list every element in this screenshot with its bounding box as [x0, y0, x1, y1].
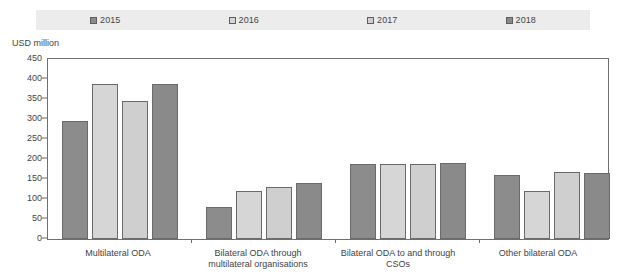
bar-2016 [92, 84, 118, 239]
legend-swatch-2017 [367, 17, 374, 24]
bar-2015 [494, 175, 520, 239]
bar-2018 [584, 173, 610, 239]
bar-group [480, 59, 624, 239]
x-tick-mark [191, 239, 192, 243]
bar-2016 [380, 164, 406, 239]
bar-2017 [554, 172, 580, 239]
legend-item-2016: 2016 [175, 16, 314, 25]
legend-label-2017: 2017 [377, 16, 397, 25]
bar-2015 [350, 164, 376, 239]
chart-legend: 2015 2016 2017 2018 [36, 10, 590, 30]
x-tick-mark [335, 239, 336, 243]
bar-2015 [62, 121, 88, 239]
bar-2016 [524, 191, 550, 239]
legend-label-2015: 2015 [100, 16, 120, 25]
y-tick-label: 250 [27, 133, 42, 143]
legend-label-2016: 2016 [239, 16, 259, 25]
x-axis-category-labels: Multilateral ODABilateral ODA through mu… [48, 248, 608, 270]
y-tick-label: 450 [27, 53, 42, 63]
legend-swatch-2018 [506, 17, 513, 24]
legend-item-2018: 2018 [452, 16, 591, 25]
y-tick-label: 200 [27, 153, 42, 163]
x-tick-mark [479, 239, 480, 243]
bar-2017 [410, 164, 436, 239]
category-label: Bilateral ODA to and through CSOs [328, 248, 468, 270]
legend-item-2015: 2015 [36, 16, 175, 25]
bar-2018 [296, 183, 322, 239]
y-axis-unit-caption: USD million [12, 38, 59, 48]
bar-2018 [152, 84, 178, 239]
y-tick-label: 400 [27, 73, 42, 83]
y-tick-label: 150 [27, 173, 42, 183]
category-label: Multilateral ODA [48, 248, 188, 270]
bar-group [48, 59, 192, 239]
bar-group [336, 59, 480, 239]
y-tick-label: 50 [32, 213, 42, 223]
bar-2016 [236, 191, 262, 239]
bar-2018 [440, 163, 466, 239]
category-label: Other bilateral ODA [468, 248, 608, 270]
legend-item-2017: 2017 [313, 16, 452, 25]
legend-label-2018: 2018 [516, 16, 536, 25]
y-tick-label: 100 [27, 193, 42, 203]
bar-2015 [206, 207, 232, 239]
bar-2017 [266, 187, 292, 239]
y-tick-label: 300 [27, 113, 42, 123]
chart-plot-area: 450400350300250200150100500 [0, 52, 626, 248]
legend-swatch-2015 [90, 17, 97, 24]
y-axis: 450400350300250200150100500 [0, 52, 48, 238]
bar-groups [48, 59, 608, 239]
bar-group [192, 59, 336, 239]
legend-swatch-2016 [229, 17, 236, 24]
category-label: Bilateral ODA through multilateral organ… [188, 248, 328, 270]
bar-2017 [122, 101, 148, 239]
y-tick-label: 350 [27, 93, 42, 103]
